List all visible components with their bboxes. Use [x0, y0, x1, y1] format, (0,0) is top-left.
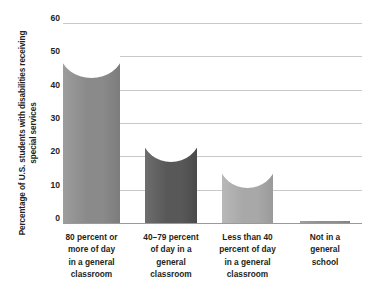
- bar-3: [300, 213, 350, 223]
- bar-cap-ellipse-1: [145, 140, 197, 162]
- y-tick-label-0: 0: [38, 213, 60, 223]
- bar-cap-ellipse-3: [300, 213, 350, 221]
- x-axis-label-line: in a general: [55, 256, 129, 268]
- y-tick-label-50: 50: [38, 46, 60, 56]
- x-axis-label-3: Not in ageneralschool: [288, 231, 362, 268]
- x-axis-label-line: in a general: [211, 256, 285, 268]
- y-tick-label-30: 30: [38, 113, 60, 123]
- y-tick-label-10: 10: [38, 180, 60, 190]
- x-axis-label-line: general: [288, 243, 362, 255]
- gridline-0: [63, 223, 362, 224]
- x-axis-labels: 80 percent ormore of dayin a generalclas…: [63, 231, 362, 287]
- x-axis-label-line: classroom: [134, 268, 208, 280]
- x-axis-label-line: Less than 40: [211, 231, 285, 243]
- bar-cap-2: [222, 166, 273, 188]
- x-axis-label-line: 40–79 percent: [134, 231, 208, 243]
- x-axis-label-line: classroom: [211, 268, 285, 280]
- x-axis-label-2: Less than 40percent of dayin a generalcl…: [211, 231, 285, 281]
- x-axis-label-line: general: [134, 256, 208, 268]
- bar-cap-0: [63, 56, 120, 78]
- gridline-60: [63, 23, 362, 24]
- x-axis-label-line: classroom: [55, 268, 129, 280]
- bar-chart: Percentage of U.S. students with disabil…: [0, 0, 366, 289]
- bar-cap-ellipse-2: [222, 166, 273, 188]
- bar-0: [63, 56, 120, 223]
- bar-body-0: [63, 56, 120, 223]
- x-axis-label-line: of day in a: [134, 243, 208, 255]
- bar-cap-ellipse-0: [63, 56, 120, 78]
- y-tick-label-40: 40: [38, 80, 60, 90]
- bar-cap-1: [145, 140, 197, 162]
- bar-cap-3: [300, 213, 350, 221]
- x-axis-label-line: 80 percent or: [55, 231, 129, 243]
- x-axis-label-0: 80 percent ormore of dayin a generalclas…: [55, 231, 129, 281]
- x-axis-label-line: Not in a: [288, 231, 362, 243]
- x-axis-label-line: percent of day: [211, 243, 285, 255]
- x-axis-label-1: 40–79 percentof day in ageneralclassroom: [134, 231, 208, 281]
- x-axis-label-line: school: [288, 256, 362, 268]
- y-tick-label-20: 20: [38, 146, 60, 156]
- bar-2: [222, 166, 273, 223]
- x-axis-label-line: more of day: [55, 243, 129, 255]
- plot-area: [63, 23, 362, 223]
- bar-1: [145, 140, 197, 223]
- y-tick-label-60: 60: [38, 13, 60, 23]
